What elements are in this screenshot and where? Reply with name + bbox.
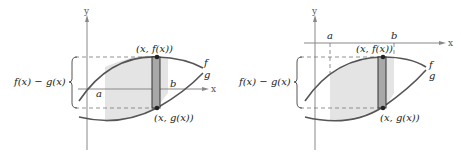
x-axis-label: x [211, 84, 216, 94]
height-brace [294, 57, 302, 108]
label-g: g [204, 69, 210, 80]
area-between-curves-diagram: y x a b f g (x, f(x)) (x, g(x)) f(x) − g… [0, 0, 461, 161]
label-b: b [391, 30, 397, 41]
point-g [381, 106, 386, 111]
left-panel: y x a b f g (x, f(x)) (x, g(x)) f(x) − g… [13, 6, 216, 150]
y-axis-label: y [311, 6, 318, 16]
label-g: g [429, 70, 435, 81]
label-f: f [203, 57, 210, 68]
right-panel: y x a b f g (x, f(x)) (x, g(x)) f(x) − g… [238, 6, 453, 150]
height-label: f(x) − g(x) [13, 76, 66, 87]
label-f: f [428, 59, 435, 70]
representative-rectangle [378, 57, 386, 108]
height-label: f(x) − g(x) [238, 76, 291, 87]
x-axis-arrow-icon [202, 87, 209, 91]
x-axis-arrow-icon [439, 41, 446, 45]
point-f [381, 55, 386, 60]
y-axis-label: y [83, 6, 90, 16]
point-f [155, 55, 160, 60]
label-point-g: (x, g(x)) [154, 112, 194, 123]
y-axis-arrow-icon [85, 15, 89, 22]
label-point-g: (x, g(x)) [380, 112, 420, 123]
representative-rectangle [152, 57, 160, 108]
point-g [155, 106, 160, 111]
label-point-f: (x, f(x)) [356, 43, 393, 54]
label-b: b [170, 78, 176, 89]
x-axis-label: x [448, 38, 453, 48]
label-a: a [327, 30, 333, 41]
label-a: a [96, 88, 102, 99]
y-axis-arrow-icon [313, 15, 317, 22]
height-brace [69, 57, 77, 108]
label-point-f: (x, f(x)) [136, 43, 173, 54]
